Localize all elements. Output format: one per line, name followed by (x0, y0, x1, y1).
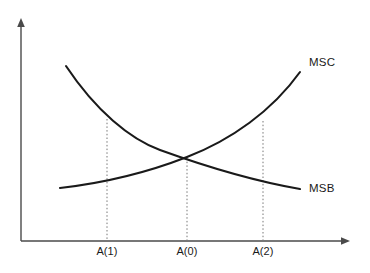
chart-canvas (0, 0, 370, 273)
msc-curve (60, 72, 300, 188)
y-axis-arrowhead (17, 18, 25, 27)
x-tick-label-a2: A(2) (252, 245, 273, 257)
x-axis-arrowhead (341, 237, 350, 245)
msb-curve-label: MSB (309, 182, 335, 194)
msc-curve-label: MSC (309, 56, 335, 68)
x-tick-label-a1: A(1) (96, 245, 117, 257)
msb-curve (66, 66, 300, 189)
economics-diagram: MSC MSB A(1) A(0) A(2) (0, 0, 370, 273)
x-tick-label-a0: A(0) (176, 245, 197, 257)
